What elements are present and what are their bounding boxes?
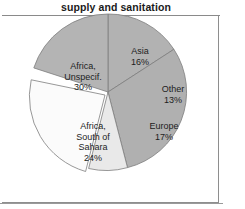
pie-label-other-value: 13%: [150, 95, 196, 106]
pie-chart-figure: supply and sanitation Asia 16% Other 13%…: [0, 0, 245, 209]
pie-label-asia-value: 16%: [118, 57, 162, 68]
pie-label-unspecif-line1: Africa,: [70, 61, 96, 71]
pie-label-other: Other 13%: [150, 84, 196, 105]
pie-label-unspecif-line2: Unspecif.: [48, 72, 118, 83]
pie-label-unspecif-value: 30%: [48, 82, 118, 93]
pie-label-sahara-line1: Africa,: [80, 121, 106, 131]
pie-label-africa-unspecif: Africa, Unspecif. 30%: [48, 61, 118, 93]
pie-label-africa-south-of-sahara: Africa, South of Sahara 24%: [57, 121, 129, 163]
pie-label-asia-name: Asia: [131, 46, 149, 56]
frame-bottom-rule: [0, 203, 223, 204]
pie-label-asia: Asia 16%: [118, 46, 162, 67]
pie-label-sahara-line3: Sahara: [57, 142, 129, 153]
pie-label-sahara-line2: South of: [57, 132, 129, 143]
pie-label-europe-value: 17%: [138, 132, 190, 143]
pie-label-europe: Europe 17%: [138, 121, 190, 142]
pie-label-europe-name: Europe: [149, 121, 178, 131]
pie-label-sahara-value: 24%: [57, 153, 129, 164]
pie-label-other-name: Other: [162, 84, 185, 94]
